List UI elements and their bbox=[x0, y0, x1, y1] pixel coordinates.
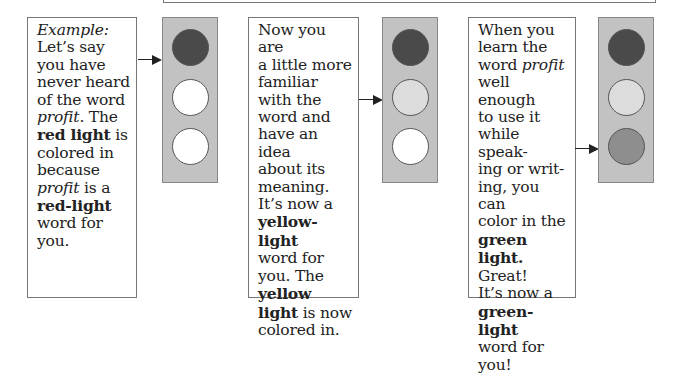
text-line: word for bbox=[37, 214, 103, 232]
text-line: have an idea bbox=[258, 125, 318, 160]
text-line: with the bbox=[258, 91, 321, 109]
arrow-to-green-light bbox=[575, 144, 599, 154]
text-line: familiar bbox=[258, 73, 318, 91]
term-light: light bbox=[258, 303, 298, 322]
text-line: never heard bbox=[37, 73, 130, 91]
term-light: light. bbox=[478, 248, 523, 267]
green-lamp-off bbox=[172, 128, 209, 165]
term-red-light: red light bbox=[37, 125, 111, 144]
text-line: colored in bbox=[37, 144, 114, 162]
text-line: word for bbox=[478, 338, 544, 356]
text-line: well enough bbox=[478, 73, 535, 108]
text-line: you have bbox=[37, 56, 106, 74]
arrow-to-yellow-light bbox=[359, 95, 383, 105]
text-line: word bbox=[478, 56, 522, 74]
text-line: color in the bbox=[478, 212, 566, 230]
text-line: you. bbox=[37, 232, 69, 250]
text-line: When you bbox=[478, 21, 554, 39]
traffic-light-3 bbox=[598, 17, 654, 183]
term-profit: profit bbox=[522, 56, 564, 74]
yellow-lamp-off bbox=[172, 79, 209, 116]
panel-3-text-box: When you learn the word profit well enou… bbox=[468, 17, 576, 298]
text-line: is bbox=[111, 126, 128, 144]
text-line: It’s now a bbox=[258, 195, 333, 213]
red-lamp-on bbox=[608, 29, 645, 66]
panel-2-text-box: Now you are a little more familiar with … bbox=[248, 17, 359, 298]
text-line: ing or writ- bbox=[478, 160, 564, 178]
term-profit: profit bbox=[37, 108, 79, 126]
panel-2-text: Now you are a little more familiar with … bbox=[258, 22, 352, 339]
term-profit: profit bbox=[37, 179, 79, 197]
yellow-lamp-on bbox=[392, 79, 429, 116]
red-lamp-on bbox=[392, 29, 429, 66]
panel-1-text-box: Example: Let’s say you have never heard … bbox=[27, 17, 137, 298]
text-line: meaning. bbox=[258, 178, 329, 196]
text-line: colored in. bbox=[258, 321, 339, 339]
text-line: you! bbox=[478, 356, 512, 374]
text-line: a little more bbox=[258, 56, 352, 74]
term-green-light-word: green-light bbox=[478, 302, 533, 339]
text-line: to use it bbox=[478, 108, 540, 126]
text-line: Let’s say bbox=[37, 38, 105, 56]
text-line: you. The bbox=[258, 267, 324, 285]
term-yellow: yellow bbox=[258, 284, 311, 303]
text-line: is now bbox=[298, 304, 352, 322]
top-frame-border bbox=[163, 0, 656, 3]
text-line: word for bbox=[258, 249, 324, 267]
term-red-light-word: red-light bbox=[37, 196, 112, 215]
text-line: It’s now a bbox=[478, 284, 553, 302]
text-line: ing, you can bbox=[478, 178, 539, 213]
text-line: . The bbox=[79, 108, 117, 126]
text-line: is a bbox=[79, 179, 110, 197]
text-line: word and bbox=[258, 108, 330, 126]
text-line: about its bbox=[258, 160, 325, 178]
panel-3-text: When you learn the word profit well enou… bbox=[478, 22, 569, 374]
text-line: because bbox=[37, 161, 100, 179]
text-line: learn the bbox=[478, 38, 547, 56]
green-lamp-on bbox=[608, 128, 645, 165]
text-line: of the word bbox=[37, 91, 125, 109]
text-line: Great! bbox=[478, 267, 527, 285]
arrow-to-red-light bbox=[138, 55, 162, 65]
example-label: Example: bbox=[37, 21, 109, 39]
traffic-light-1 bbox=[162, 17, 218, 183]
traffic-light-2 bbox=[382, 17, 438, 183]
green-lamp-off bbox=[392, 128, 429, 165]
yellow-lamp-on bbox=[608, 79, 645, 116]
red-lamp-on bbox=[172, 29, 209, 66]
text-line: while speak- bbox=[478, 125, 527, 160]
term-yellow-light-word: yellow-light bbox=[258, 212, 317, 249]
term-green: green bbox=[478, 230, 527, 249]
text-line: Now you are bbox=[258, 21, 326, 56]
panel-1-text: Example: Let’s say you have never heard … bbox=[37, 22, 130, 250]
